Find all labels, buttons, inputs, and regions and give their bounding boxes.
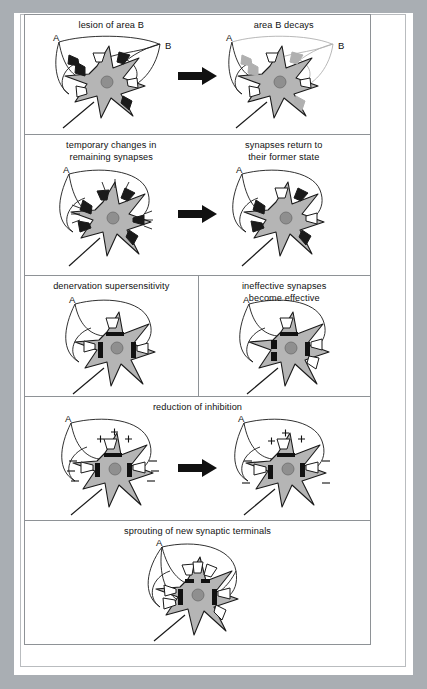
- receptor-patch: [95, 463, 100, 477]
- terminal-white: [193, 562, 203, 573]
- axon-hillock: [63, 102, 94, 128]
- axon-label-a: A: [236, 164, 243, 175]
- terminal-white: [204, 564, 217, 577]
- terminal-white: [182, 564, 194, 575]
- receptor-patch: [305, 342, 310, 356]
- neuron-diagram-sprouted: A: [128, 539, 268, 643]
- nucleus: [274, 76, 286, 88]
- axon-hillock: [73, 368, 104, 394]
- receptor-patch: [106, 332, 124, 336]
- terminal-degenerating: [241, 55, 252, 66]
- neuron-diagram-supersensitive: A: [55, 294, 185, 394]
- panel-caption: lesion of area B: [25, 20, 198, 32]
- panel-row-sprouting: sprouting of new synaptic terminals A: [25, 521, 370, 644]
- nucleus: [107, 212, 119, 224]
- receptor-patch: [131, 342, 136, 358]
- axon-hillock: [71, 489, 102, 515]
- neuron-svg: A: [229, 294, 359, 394]
- axon-label-a: A: [243, 294, 250, 305]
- panel-inhibition-reduced: A: [198, 397, 371, 520]
- panel-caption: denervation supersensitivity: [25, 281, 198, 293]
- receptor-patch: [178, 589, 183, 605]
- panel-grid: lesion of area B: [24, 14, 371, 645]
- neuron-diagram-restored: A: [220, 164, 360, 272]
- axon-label-a: A: [156, 537, 163, 548]
- axon-label-a: A: [226, 32, 233, 43]
- panel-ineffective-become-effective: ineffective synapses become effective A: [198, 276, 371, 396]
- axon-label-a: A: [238, 413, 245, 424]
- panel-synapses-return: synapses return to their former state A: [198, 135, 371, 275]
- panel-caption: temporary changes in remaining synapses: [25, 140, 198, 163]
- nucleus: [192, 589, 204, 601]
- axon-hillock: [236, 102, 267, 128]
- panel-row-temporary-changes: temporary changes in remaining synapses …: [25, 135, 370, 276]
- axon-label-b: B: [338, 40, 344, 51]
- figure-page: lesion of area B: [0, 0, 427, 689]
- nucleus: [280, 212, 292, 224]
- panel-inhibition-present: A: [25, 397, 198, 520]
- panel-temporary-changes: temporary changes in remaining synapses …: [25, 135, 198, 275]
- nucleus: [285, 342, 297, 354]
- neuron-svg: A: [128, 539, 268, 643]
- neuron-svg: A B: [39, 32, 189, 132]
- axon-hillock: [242, 238, 273, 266]
- neuron-svg: A: [55, 294, 185, 394]
- receptor-patch: [127, 463, 132, 477]
- axon-label-a: A: [69, 294, 76, 305]
- panel-row-lesion: lesion of area B: [25, 15, 370, 135]
- panel-row-supersensitivity: denervation supersensitivity A: [25, 276, 370, 397]
- neuron-diagram-inhibition-present: A: [49, 413, 185, 517]
- receptor-patch: [201, 579, 210, 583]
- receptor-patch: [268, 465, 273, 479]
- receptor-patch: [280, 332, 298, 336]
- panel-denervation-supersensitivity: denervation supersensitivity A: [25, 276, 198, 396]
- nucleus: [101, 76, 113, 88]
- axon-hillock: [69, 238, 100, 266]
- receptor-patch: [271, 352, 277, 361]
- neuron-diagram-b-degenerating: A B: [212, 32, 362, 132]
- axon-label-a: A: [53, 32, 60, 43]
- axon-hillock: [244, 489, 275, 515]
- panel-area-b-decays: area B decays: [198, 15, 371, 134]
- receptor-patch: [185, 579, 194, 583]
- terminal-white: [127, 78, 138, 88]
- axon-label-a: A: [63, 164, 70, 175]
- receptor-patch: [300, 463, 305, 477]
- neuron-diagram-hyperactive: A: [47, 164, 187, 272]
- axon-label-b: B: [165, 40, 171, 51]
- panel-row-reduction-of-inhibition: reduction of inhibition A: [25, 397, 370, 521]
- receptor-patch: [271, 340, 277, 349]
- nucleus: [109, 463, 121, 475]
- panel-caption: area B decays: [198, 20, 371, 32]
- receptor-patch: [277, 453, 295, 457]
- receptor-patch: [104, 453, 122, 457]
- nucleus: [111, 342, 123, 354]
- terminal-white: [300, 78, 311, 88]
- neuron-svg: A: [222, 413, 358, 517]
- neuron-diagram-inhibition-reduced: A: [222, 413, 358, 517]
- neuron-diagram-unmasked: A: [229, 294, 359, 394]
- terminal-dark: [97, 190, 109, 200]
- panel-lesion-of-area-b: lesion of area B: [25, 15, 198, 134]
- axon-hillock: [154, 615, 185, 641]
- neuron-svg: A B: [212, 32, 362, 132]
- neuron-svg: A: [220, 164, 360, 272]
- neuron-svg: A: [47, 164, 187, 272]
- axon-hillock: [247, 368, 278, 394]
- neuron-diagram-intact: A B: [39, 32, 189, 132]
- panel-caption: sprouting of new synaptic terminals: [25, 526, 370, 538]
- panel-caption: synapses return to their former state: [198, 140, 371, 163]
- axon-label-a: A: [65, 413, 72, 424]
- neuron-svg: A: [49, 413, 185, 517]
- receptor-patch: [212, 589, 217, 605]
- terminal-dark: [68, 55, 79, 66]
- receptor-patch: [98, 342, 103, 358]
- nucleus: [282, 463, 294, 475]
